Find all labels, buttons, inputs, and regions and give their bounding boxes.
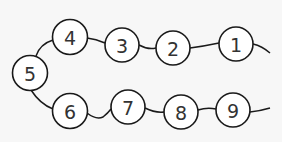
link-1-2 bbox=[190, 43, 219, 48]
node-9: 9 bbox=[216, 93, 250, 127]
link-4-5 bbox=[36, 40, 53, 56]
svg-text:2: 2 bbox=[167, 38, 179, 60]
node-6: 6 bbox=[53, 94, 88, 129]
node-8: 8 bbox=[164, 95, 198, 129]
svg-text:9: 9 bbox=[227, 100, 239, 122]
link-6-7 bbox=[87, 109, 111, 118]
svg-text:7: 7 bbox=[122, 97, 134, 119]
node-7: 7 bbox=[111, 90, 145, 124]
node-3: 3 bbox=[105, 28, 139, 62]
link-7-8 bbox=[145, 108, 164, 112]
number-chain-diagram: 1 2 3 4 5 6 7 8 9 bbox=[0, 0, 282, 142]
svg-text:4: 4 bbox=[64, 27, 76, 49]
link-2-3 bbox=[139, 45, 156, 49]
link-tail-9 bbox=[250, 108, 270, 112]
link-8-9 bbox=[198, 108, 216, 110]
link-tail-1 bbox=[253, 44, 270, 53]
svg-text:5: 5 bbox=[24, 63, 36, 85]
node-1: 1 bbox=[219, 27, 253, 61]
svg-text:1: 1 bbox=[230, 34, 242, 56]
svg-text:6: 6 bbox=[64, 101, 76, 123]
node-5: 5 bbox=[13, 56, 48, 91]
node-4: 4 bbox=[53, 20, 88, 55]
node-2: 2 bbox=[156, 31, 190, 65]
link-3-4 bbox=[87, 38, 105, 43]
link-5-6 bbox=[31, 90, 53, 109]
svg-text:3: 3 bbox=[116, 35, 128, 57]
svg-text:8: 8 bbox=[175, 102, 187, 124]
